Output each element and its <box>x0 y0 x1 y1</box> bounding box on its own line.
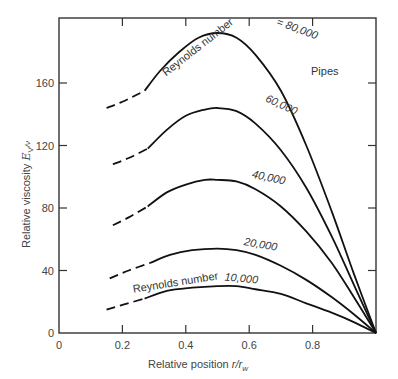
x-tick-label: 0.8 <box>305 339 320 351</box>
curve-label-60000: 60,000 <box>264 92 300 117</box>
x-tick-label: 0.4 <box>178 339 193 351</box>
pipes-annotation: Pipes <box>311 65 339 77</box>
curve-40000-dashed <box>113 206 148 225</box>
curve-label-80000: = 80,000 <box>275 15 320 41</box>
y-axis-title-var: E <box>20 153 33 162</box>
y-axis-title: Relative viscosity EV/ν <box>20 141 35 248</box>
viscosity-chart: 00.20.40.60.804080120160 = 80,00060,0004… <box>0 0 398 379</box>
y-tick-label: 0 <box>48 327 54 339</box>
reynolds-number-label-bottom: Reynolds number <box>132 269 219 294</box>
curve-label-40000: 40,000 <box>251 168 287 187</box>
curve-60000-solid <box>148 108 376 333</box>
curve-label-20000: 20,000 <box>242 235 279 253</box>
curve-labels: = 80,00060,00040,00020,00010,000Reynolds… <box>132 15 321 294</box>
y-axis-title-main: Relative viscosity <box>20 161 32 248</box>
curve-10000-dashed <box>107 299 145 310</box>
y-tick-label: 160 <box>36 77 54 89</box>
x-axis-title-sub: w <box>242 364 249 373</box>
curve-10000-solid <box>145 286 376 333</box>
curve-60000-dashed <box>113 149 148 165</box>
y-tick-label: 40 <box>42 265 54 277</box>
y-axis-title-tail: /ν <box>23 141 32 148</box>
curve-80000-dashed <box>107 91 145 108</box>
x-tick-label: 0.2 <box>115 339 130 351</box>
x-axis-title: Relative position r/rw <box>148 358 249 373</box>
curve-label-10000: 10,000 <box>224 271 259 286</box>
y-tick-label: 120 <box>36 140 54 152</box>
curve-20000-dashed <box>110 263 151 279</box>
reynolds-number-label-top: Reynolds number <box>160 15 236 78</box>
x-tick-label: 0 <box>56 339 62 351</box>
x-axis-title-main: Relative position <box>148 358 232 370</box>
x-tick-label: 0.6 <box>242 339 257 351</box>
y-tick-label: 80 <box>42 202 54 214</box>
